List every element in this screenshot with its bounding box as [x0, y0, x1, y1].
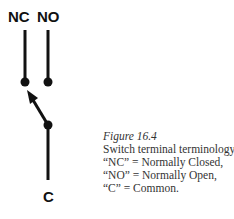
figure-caption: Figure 16.4 Switch terminal terminology:…: [103, 130, 234, 195]
c-label: C: [43, 189, 54, 204]
no-contact-dot: [44, 78, 53, 87]
caption-line: “NC” = Normally Closed,: [103, 156, 234, 169]
nc-contact-dot: [21, 78, 30, 87]
caption-line: “NO” = Normally Open,: [103, 169, 234, 182]
caption-line: “C” = Common.: [103, 182, 234, 195]
nc-label: NC: [8, 9, 30, 24]
caption-line: Switch terminal terminology:: [103, 143, 234, 156]
switch-arm-arrowhead-icon: [27, 90, 38, 104]
figure-number: Figure 16.4: [103, 130, 234, 143]
no-label: NO: [37, 9, 60, 24]
